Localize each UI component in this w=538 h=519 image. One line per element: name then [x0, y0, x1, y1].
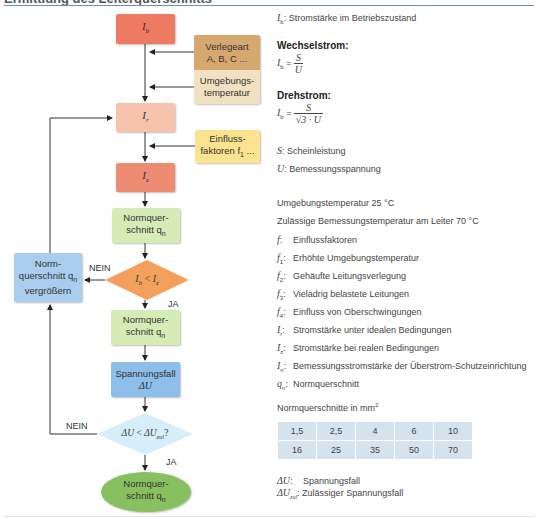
- legend-row: f1:Erhöhte Umgebungstemperatur: [277, 252, 419, 265]
- table-cell: 50: [395, 441, 434, 460]
- legend-row: f2:Gehäufte Leitungsverlegung: [277, 270, 406, 283]
- decision-du-less-duzul: ΔU < ΔUzul?: [97, 413, 193, 455]
- table-cell: 10: [434, 422, 473, 441]
- legend-du: ΔU:Spannungsfall: [277, 475, 360, 486]
- node-querschnitt-vergroessern: Norm-querschnitt qnvergrößern: [14, 253, 82, 302]
- table-cell: 25: [317, 441, 356, 460]
- table-cell: 2,5: [317, 422, 356, 441]
- table-cell: 35: [356, 441, 395, 460]
- node-ir: Ir: [116, 103, 175, 132]
- node-normquerschnitt-1: Normquer-schnitt qn: [112, 208, 180, 243]
- label-ja-1: JA: [168, 299, 179, 309]
- formula-wechselstrom: Ib = SU: [277, 52, 303, 75]
- legend-ib: Ib: Stromstärke im Betriebszustand: [277, 12, 416, 25]
- legend-row: f:Einflussfaktoren: [277, 234, 357, 245]
- legend-u: U: Bemessungsspannung: [277, 163, 381, 174]
- heading-drehstrom: Drehstrom:: [277, 90, 331, 101]
- legend-row: Iz:Stromstärke bei realen Bedingungen: [277, 342, 439, 355]
- legend-row: qn:Normquerschnitt: [277, 378, 359, 391]
- label-nein-1: NEIN: [89, 263, 111, 273]
- table-cell: 6: [395, 422, 434, 441]
- legend-duzul: ΔUzul: Zulässiger Spannungsfall: [277, 487, 403, 500]
- ambient-temperature: Umgebungstemperatur 25 °C: [277, 198, 394, 208]
- table-cell: 1,5: [278, 422, 317, 441]
- heading-wechselstrom: Wechselstrom:: [277, 40, 349, 51]
- legend-row: f3:Vieladrig belastete Leitungen: [277, 288, 409, 301]
- node-result-normquerschnitt: Normquer-schnitt qn: [101, 472, 191, 512]
- table-cell: 16: [278, 441, 317, 460]
- formula-drehstrom: Ib = S√3 · U: [277, 102, 323, 125]
- table-title: Normquerschnitte in mm2: [277, 402, 378, 413]
- legend-s: S: Scheinleistung: [277, 145, 346, 156]
- table-cell: 70: [434, 441, 473, 460]
- table-row: 1,5 2,5 4 6 10: [278, 422, 473, 441]
- conductor-temperature: Zulässige Bemessungstemperatur am Leiter…: [277, 216, 479, 226]
- legend-row: Ir:Stromstärke unter idealen Bedingungen: [277, 324, 452, 337]
- label-ja-2: JA: [166, 457, 177, 467]
- decision-ib-less-iz: Ib < Iz: [105, 260, 189, 300]
- label-nein-2: NEIN: [66, 421, 88, 431]
- node-einflussfaktoren: Einfluss-faktoren f1 ...: [195, 130, 260, 163]
- node-normquerschnitt-2: Normquer-schnitt qn: [111, 310, 180, 345]
- table-cell: 4: [356, 422, 395, 441]
- node-spannungsfall: SpannungsfallΔU: [111, 362, 180, 397]
- node-iz: Iz: [116, 163, 175, 192]
- normquerschnitte-table: 1,5 2,5 4 6 10 16 25 35 50 70: [277, 421, 473, 460]
- node-ib: Ib: [116, 14, 175, 44]
- node-umgebungstemperatur: Umgebungs-temperatur: [194, 70, 260, 104]
- legend-row: In:Bemessungsstromstärke der Überstrom-S…: [277, 360, 527, 373]
- node-verlegeart: VerlegeartA, B, C ...: [194, 35, 260, 70]
- table-row: 16 25 35 50 70: [278, 441, 473, 460]
- legend-row: f4:Einfluss von Oberschwingungen: [277, 306, 422, 319]
